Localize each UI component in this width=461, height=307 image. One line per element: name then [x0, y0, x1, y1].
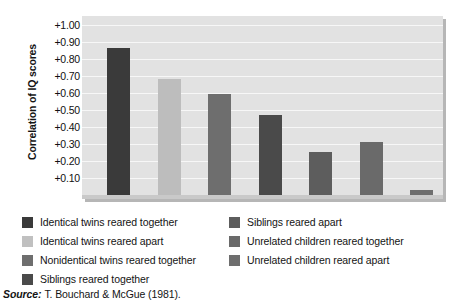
chart-legend: Identical twins reared togetherIdentical…: [0, 213, 461, 283]
bar: [309, 152, 332, 195]
y-axis-tick-label: +0.50: [36, 104, 80, 116]
legend-column-right: Siblings reared apartUnrelated children …: [229, 213, 459, 270]
legend-swatch-icon: [22, 236, 33, 247]
source-caption: Source:T. Bouchard & McGue (1981).: [3, 288, 181, 300]
legend-swatch-icon: [22, 217, 33, 228]
legend-label: Siblings reared together: [40, 273, 149, 285]
legend-item: Identical twins reared apart: [22, 232, 232, 250]
source-label: Source:: [3, 288, 41, 300]
y-axis-tick-label: +0.30: [36, 138, 80, 150]
legend-swatch-icon: [229, 236, 240, 247]
bar-series: [82, 16, 443, 199]
legend-item: Siblings reared apart: [229, 213, 459, 231]
legend-swatch-icon: [229, 255, 240, 266]
legend-label: Unrelated children reared together: [247, 235, 404, 247]
y-axis-tick-labels: +1.00+0.90+0.80+0.70+0.60+0.50+0.40+0.30…: [36, 16, 80, 199]
legend-label: Identical twins reared together: [40, 216, 178, 228]
legend-label: Identical twins reared apart: [40, 235, 163, 247]
legend-column-left: Identical twins reared togetherIdentical…: [22, 213, 232, 289]
legend-label: Nonidentical twins reared together: [40, 254, 196, 266]
axis-baseline: [82, 195, 443, 199]
y-axis-tick-label: +0.90: [36, 36, 80, 48]
bar: [259, 115, 282, 195]
y-axis-tick-label: +0.40: [36, 121, 80, 133]
legend-swatch-icon: [22, 274, 33, 285]
bar: [158, 79, 181, 195]
bar: [208, 94, 231, 195]
legend-item: Unrelated children reared together: [229, 232, 459, 250]
legend-label: Siblings reared apart: [247, 216, 342, 228]
legend-item: Identical twins reared together: [22, 213, 232, 231]
bar: [107, 48, 130, 195]
legend-label: Unrelated children reared apart: [247, 254, 389, 266]
legend-item: Siblings reared together: [22, 270, 232, 288]
legend-swatch-icon: [22, 255, 33, 266]
plot-area: [82, 16, 443, 199]
y-axis-tick-label: +0.60: [36, 87, 80, 99]
legend-item: Unrelated children reared apart: [229, 251, 459, 269]
y-axis-tick-label: +0.70: [36, 70, 80, 82]
legend-item: Nonidentical twins reared together: [22, 251, 232, 269]
source-text: T. Bouchard & McGue (1981).: [44, 288, 180, 300]
y-axis-tick-label: +0.80: [36, 53, 80, 65]
chart-figure: Correlation of IQ scores +1.00+0.90+0.80…: [0, 0, 461, 307]
bar: [360, 142, 383, 195]
y-axis-tick-label: +0.20: [36, 155, 80, 167]
y-axis-tick-label: +0.10: [36, 172, 80, 184]
y-axis-tick-label: +1.00: [36, 19, 80, 31]
legend-swatch-icon: [229, 217, 240, 228]
